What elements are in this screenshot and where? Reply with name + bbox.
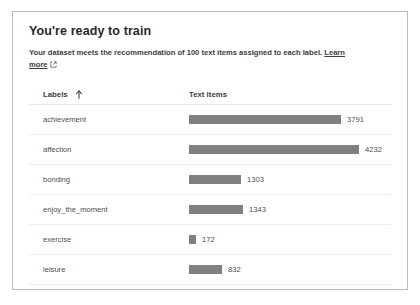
row-count: 1343 — [249, 205, 266, 214]
table-row[interactable]: enjoy_the_moment1343 — [29, 195, 391, 225]
card-content: You're ready to train Your dataset meets… — [13, 12, 407, 290]
row-count: 3791 — [347, 115, 364, 124]
row-bar — [189, 175, 241, 184]
column-header-text-items-text: Text items — [189, 90, 227, 99]
table-body: achievement3791affection4232bonding1303e… — [29, 105, 391, 290]
row-bar — [189, 145, 359, 154]
column-header-labels[interactable]: Labels — [43, 90, 189, 99]
ready-to-train-card: You're ready to train Your dataset meets… — [12, 11, 408, 290]
row-label: affection — [43, 145, 189, 154]
card-subtitle: Your dataset meets the recommendation of… — [29, 47, 359, 70]
table-row[interactable]: leisure832 — [29, 255, 391, 285]
page-root: You're ready to train Your dataset meets… — [0, 0, 420, 305]
row-count: 1303 — [247, 175, 264, 184]
row-bar-cell: 1303 — [189, 175, 391, 184]
row-bar-cell: 4232 — [189, 145, 391, 154]
learn-more-link-part2[interactable]: more — [29, 60, 48, 69]
row-bar-cell: 3791 — [189, 115, 391, 124]
table-row[interactable]: affection4232 — [29, 135, 391, 165]
row-label: exercise — [43, 235, 189, 244]
row-label: leisure — [43, 265, 189, 274]
table-row[interactable]: achievement3791 — [29, 105, 391, 135]
row-bar-cell: 832 — [189, 265, 391, 274]
column-header-text-items[interactable]: Text items — [189, 90, 227, 99]
row-label: bonding — [43, 175, 189, 184]
labels-table: Labels Text items achievement3791affecti… — [29, 84, 391, 290]
row-bar — [189, 115, 341, 124]
row-bar — [189, 265, 222, 274]
row-count: 832 — [228, 265, 241, 274]
row-bar — [189, 205, 243, 214]
sort-ascending-arrow-icon[interactable] — [75, 90, 83, 99]
table-row[interactable]: exercise172 — [29, 225, 391, 255]
table-row[interactable]: bonding1303 — [29, 165, 391, 195]
row-label: enjoy_the_moment — [43, 205, 189, 214]
row-bar-cell: 1343 — [189, 205, 391, 214]
column-header-labels-text: Labels — [43, 90, 68, 99]
row-bar — [189, 235, 196, 244]
row-count: 172 — [202, 235, 215, 244]
learn-more-link-part1[interactable]: Learn — [324, 48, 345, 57]
row-bar-cell: 172 — [189, 235, 391, 244]
table-row[interactable]: nature274 — [29, 285, 391, 290]
row-label: achievement — [43, 115, 189, 124]
subtitle-text: Your dataset meets the recommendation of… — [29, 48, 322, 57]
table-header-row: Labels Text items — [29, 84, 391, 105]
row-count: 4232 — [365, 145, 382, 154]
external-link-icon — [50, 61, 57, 68]
page-title: You're ready to train — [29, 24, 391, 38]
